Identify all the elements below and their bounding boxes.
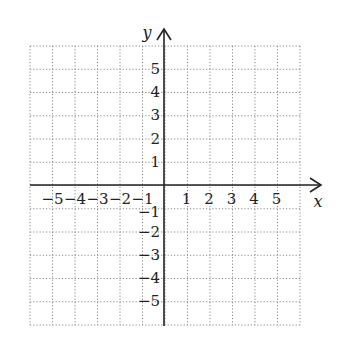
x-tick-label: 3 xyxy=(227,190,237,208)
coordinate-grid-svg: y x −5−4−3−2−112345 54321−1−2−3−4−5 xyxy=(0,0,351,346)
y-tick-label: 3 xyxy=(150,106,160,124)
y-tick-label: 4 xyxy=(150,83,160,101)
coordinate-plane: y x −5−4−3−2−112345 54321−1−2−3−4−5 xyxy=(0,0,351,346)
y-axis-label: y xyxy=(141,23,152,42)
x-tick-label: −3 xyxy=(86,190,108,208)
y-tick-label: −5 xyxy=(138,292,160,310)
y-tick-label: 1 xyxy=(150,153,160,171)
x-tick-label: 2 xyxy=(204,190,214,208)
y-tick-label: −2 xyxy=(138,223,160,241)
x-tick-label: 1 xyxy=(182,190,192,208)
x-tick-label: −5 xyxy=(41,190,63,208)
y-tick-label: −1 xyxy=(138,203,160,221)
y-tick-label: 2 xyxy=(150,130,160,148)
y-tick-label: −3 xyxy=(138,246,160,264)
x-tick-label: 5 xyxy=(272,190,282,208)
x-tick-labels: −5−4−3−2−112345 xyxy=(41,190,281,208)
y-tick-label: 5 xyxy=(150,60,160,78)
x-tick-label: −4 xyxy=(64,190,86,208)
y-tick-label: −4 xyxy=(138,269,160,287)
x-tick-label: 4 xyxy=(249,190,259,208)
x-axis-label: x xyxy=(313,192,322,211)
x-tick-label: −2 xyxy=(109,190,131,208)
